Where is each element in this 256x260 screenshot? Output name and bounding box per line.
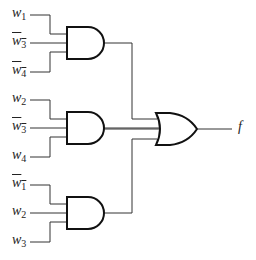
or-gate xyxy=(156,113,197,145)
input-label-w4-bar: w4 xyxy=(12,63,26,79)
input-label-w1: w1 xyxy=(12,6,26,22)
and-gate-3 xyxy=(67,197,104,229)
output-label-f: f xyxy=(238,120,242,134)
and-gate-2 xyxy=(67,112,104,144)
logic-circuit-diagram: w1 w3 w4 w2 w3 w4 w1 w2 w3 f xyxy=(0,0,256,260)
input-label-w2-2: w2 xyxy=(12,204,26,220)
and-gate-1 xyxy=(67,27,104,59)
input-label-w3: w3 xyxy=(12,233,26,249)
input-label-w2: w2 xyxy=(12,91,26,107)
input-label-w3-bar: w3 xyxy=(12,34,26,50)
input-label-w4: w4 xyxy=(12,148,26,164)
circuit-drawing xyxy=(0,0,256,260)
input-label-w3-bar-2: w3 xyxy=(12,119,26,135)
input-label-w1-bar: w1 xyxy=(12,176,26,192)
